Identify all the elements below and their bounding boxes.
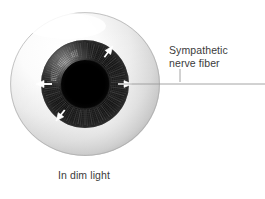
sclera-top-glint xyxy=(26,13,106,39)
pupil xyxy=(61,60,109,108)
callout-label-line1: Sympathetic xyxy=(169,44,228,57)
figure-caption: In dim light xyxy=(58,169,110,182)
eye-dilation-diagram xyxy=(0,0,265,199)
callout-label: Sympathetic nerve fiber xyxy=(169,44,228,69)
callout-label-line2: nerve fiber xyxy=(169,57,228,70)
